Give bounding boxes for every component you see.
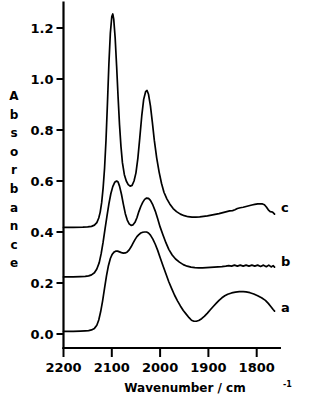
curve-label-a: a [281,300,290,315]
y-axis-tick-label: 0.8 [30,123,53,138]
x-axis-tick-label: 2100 [94,360,130,375]
x-axis-tick-label: 1800 [239,360,275,375]
y-axis-tick-label: 1.0 [30,72,53,87]
y-axis-title-letter: A [9,89,19,103]
y-axis-title-letter: n [10,219,19,233]
y-axis-title-letter: s [10,126,17,140]
y-axis-title-letter: r [11,163,17,177]
y-axis-title-letter: c [10,238,17,252]
curve-label-c: c [281,200,289,215]
spectrum-curve-a [64,232,275,331]
y-axis-title-letter: b [10,108,19,122]
x-axis-tick-labels: 22002100200019001800 [45,360,274,375]
y-axis-tick-label: 0.2 [30,276,53,291]
axes [57,3,280,358]
spectrum-curve-c [64,14,275,227]
spectrum-plot: 0.00.20.40.60.81.01.2 220021002000190018… [0,0,311,402]
curve-labels: cba [281,200,290,316]
x-axis-tick-label: 2200 [45,360,81,375]
spectrum-curves [64,14,275,331]
y-axis-title-letter: o [10,145,18,159]
y-axis-tick-label: 0.6 [30,174,53,189]
x-axis-tick-label: 2000 [142,360,178,375]
x-axis-tick-label: 1900 [190,360,226,375]
ir-spectrum-figure: 0.00.20.40.60.81.01.2 220021002000190018… [0,0,311,402]
y-axis-title-letter: a [10,201,18,215]
curve-label-b: b [281,254,290,269]
y-axis-title-letter: b [10,182,19,196]
x-axis-ticks [64,348,257,357]
x-axis-title-exponent: -1 [283,380,292,389]
x-axis-title: Wavenumber / cm -1 [124,380,292,395]
y-axis-tick-labels: 0.00.20.40.60.81.01.2 [30,21,53,342]
x-axis-title-label: Wavenumber / cm [124,381,245,395]
y-axis-tick-label: 0.0 [30,327,53,342]
y-axis-tick-label: 1.2 [30,21,53,36]
y-axis-title-letter: e [10,256,18,270]
y-axis-title: Absorbance [9,89,19,270]
spectrum-curve-b [64,181,275,277]
y-axis-tick-label: 0.4 [30,225,53,240]
